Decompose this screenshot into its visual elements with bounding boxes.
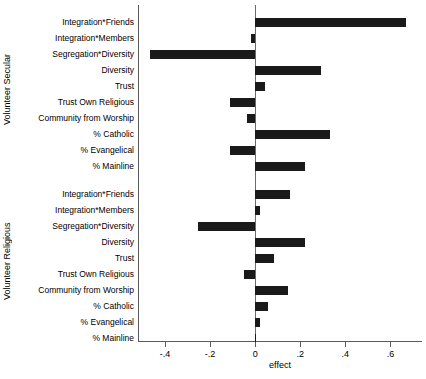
category-label: % Catholic [14,298,134,314]
x-axis-tick-label: -.4 [150,349,180,359]
bar [247,114,255,123]
category-label: Trust [14,250,134,266]
x-axis-tick-label: .4 [330,349,360,359]
bar-row [138,266,422,282]
bar-row [138,110,422,126]
bar [230,98,255,107]
bar [198,222,255,231]
bar-row [138,282,422,298]
bar [255,66,320,75]
bar [255,18,406,27]
bar [255,254,274,263]
effect-bar-chart: Volunteer Secular Volunteer Religious In… [0,0,426,379]
bar-row [138,14,422,30]
bar-row [138,94,422,110]
bar-row [138,158,422,174]
category-label: Integration*Friends [14,186,134,202]
panel-caption-volunteer-secular: Volunteer Secular [0,14,14,164]
bar [255,162,305,171]
category-labels-volunteer-religious: Integration*FriendsIntegration*MembersSe… [14,186,134,346]
bar [255,130,329,139]
bar-row [138,126,422,142]
bar [255,318,260,327]
category-label: % Evangelical [14,314,134,330]
bar-row [138,46,422,62]
category-label: % Mainline [14,330,134,346]
bar-row [138,78,422,94]
category-label: % Catholic [14,126,134,142]
category-label: Segregation*Diversity [14,218,134,234]
bar [255,82,265,91]
bar [255,206,260,215]
bar-row [138,30,422,46]
bar-row [138,142,422,158]
bar [255,286,288,295]
bar-row [138,298,422,314]
category-label: Trust [14,78,134,94]
x-axis-tick [255,342,256,347]
category-label: Integration*Friends [14,14,134,30]
bar-row [138,330,422,346]
category-label: % Mainline [14,158,134,174]
category-label: Integration*Members [14,202,134,218]
bar-row [138,234,422,250]
x-axis-tick-label: .2 [285,349,315,359]
bar [150,50,255,59]
x-axis-tick [165,342,166,347]
x-axis-title: effect [138,360,422,370]
category-label: Segregation*Diversity [14,46,134,62]
bar [255,238,305,247]
bar-row [138,202,422,218]
x-axis-tick [300,342,301,347]
category-label: Community from Worship [14,110,134,126]
panel-caption-volunteer-religious: Volunteer Religious [0,186,14,336]
x-axis-tick [345,342,346,347]
category-label: % Evangelical [14,142,134,158]
bar-row [138,314,422,330]
bar [244,270,255,279]
category-label: Diversity [14,62,134,78]
bar [255,190,290,199]
x-axis-tick [210,342,211,347]
category-labels-volunteer-secular: Integration*FriendsIntegration*MembersSe… [14,14,134,174]
bar-row [138,250,422,266]
bar [230,146,255,155]
plot-area: -.4-.20.2.4.6 [138,5,422,341]
category-label: Integration*Members [14,30,134,46]
bar [255,302,267,311]
category-label: Trust Own Religious [14,266,134,282]
bar-row [138,218,422,234]
category-label: Diversity [14,234,134,250]
bar-row [138,62,422,78]
category-label: Community from Worship [14,282,134,298]
x-axis-tick-label: 0 [240,349,270,359]
x-axis-tick-label: .6 [375,349,405,359]
bar [251,34,256,43]
category-label: Trust Own Religious [14,94,134,110]
x-axis-tick-label: -.2 [195,349,225,359]
x-axis-tick [390,342,391,347]
bar-row [138,186,422,202]
